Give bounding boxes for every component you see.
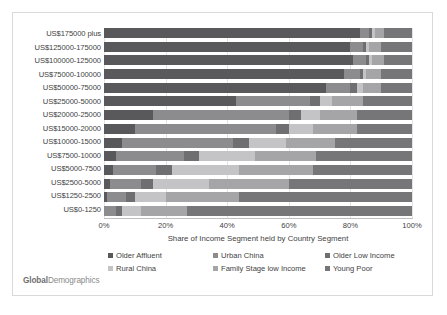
bar-segment [153, 110, 289, 120]
bar-segment [116, 151, 184, 161]
y-axis-label: US$10000-15000 [13, 136, 101, 148]
bar-segment [135, 192, 166, 202]
stacked-bar-row [104, 151, 412, 161]
x-axis-tick-labels: 0%20%40%60%80%100% [104, 221, 412, 233]
gridline [412, 28, 413, 218]
legend-item[interactable]: Older Affluent [108, 249, 213, 262]
bar-segment [310, 96, 319, 106]
legend-item-label: Older Affluent [116, 251, 162, 260]
bar-segment [375, 28, 384, 38]
stacked-bars-container [104, 28, 412, 216]
x-tick-label: 40% [220, 221, 235, 230]
bar-segment [166, 192, 240, 202]
y-axis-label: US$1250-2500 [13, 190, 101, 202]
bar-segment [357, 124, 412, 134]
x-tick-label: 80% [343, 221, 358, 230]
legend-item-label: Family Stage low Income [221, 264, 306, 273]
bar-segment [239, 192, 411, 202]
bar-segment [249, 138, 286, 148]
bar-segment [104, 206, 116, 216]
x-tick-label: 20% [158, 221, 173, 230]
bar-segment [384, 28, 412, 38]
bar-segment [104, 124, 135, 134]
bar-segment [369, 42, 381, 52]
brand-rest: Demographics [48, 276, 100, 285]
bar-segment [104, 96, 236, 106]
stacked-bar-row [104, 42, 412, 52]
chart-frame: US$175000 plusUS$125000-175000US$100000-… [12, 12, 433, 296]
bar-segment [135, 124, 277, 134]
bar-segment [153, 179, 208, 189]
bar-segment [184, 151, 199, 161]
bar-segment [384, 55, 412, 65]
bar-segment [104, 83, 326, 93]
y-axis-label: US$15000-20000 [13, 123, 101, 135]
bar-segment [313, 124, 356, 134]
y-axis-label: US$75000-100000 [13, 69, 101, 81]
stacked-bar-row [104, 28, 412, 38]
y-axis-label: US$2500-5000 [13, 177, 101, 189]
bar-segment [344, 69, 359, 79]
chart-legend: Older AffluentUrban ChinaOlder Low Incom… [108, 249, 418, 275]
legend-item[interactable]: Family Stage low Income [213, 262, 325, 275]
bar-segment [289, 179, 412, 189]
stacked-bar-row [104, 138, 412, 148]
legend-item-label: Young Poor [333, 264, 372, 273]
stacked-bar-row [104, 192, 412, 202]
bar-segment [353, 55, 365, 65]
legend-item[interactable]: Young Poor [325, 262, 418, 275]
bar-segment [187, 206, 412, 216]
bar-segment [110, 179, 141, 189]
bar-segment [357, 110, 412, 120]
bar-segment [239, 165, 313, 175]
y-axis-label: US$0-1250 [13, 204, 101, 216]
x-tick-label: 100% [402, 221, 421, 230]
bar-segment [350, 42, 362, 52]
bar-segment [122, 138, 233, 148]
bar-segment [381, 69, 412, 79]
bar-segment [381, 83, 412, 93]
legend-swatch-icon [325, 266, 330, 271]
y-axis-category-labels: US$175000 plusUS$125000-175000US$100000-… [13, 28, 101, 216]
y-axis-label: US$175000 plus [13, 28, 101, 40]
legend-swatch-icon [108, 253, 113, 258]
legend-item[interactable]: Rural China [108, 262, 213, 275]
bar-segment [289, 110, 301, 120]
bar-segment [113, 165, 156, 175]
bar-segment [104, 69, 344, 79]
brand-watermark: GlobalDemographics [23, 276, 99, 285]
bar-segment [156, 165, 171, 175]
bar-segment [276, 124, 288, 134]
y-axis-label: US$100000-125000 [13, 55, 101, 67]
x-tick-label: 0% [99, 221, 110, 230]
bar-segment [360, 28, 369, 38]
legend-swatch-icon [108, 266, 113, 271]
plot-area: US$175000 plusUS$125000-175000US$100000-… [13, 13, 432, 295]
bar-segment [107, 192, 125, 202]
legend-item[interactable]: Urban China [213, 249, 325, 262]
legend-item-label: Rural China [116, 264, 156, 273]
y-axis-label: US$50000-75000 [13, 82, 101, 94]
legend-swatch-icon [325, 253, 330, 258]
stacked-bar-row [104, 124, 412, 134]
bar-segment [122, 206, 140, 216]
legend-item-label: Urban China [221, 251, 264, 260]
stacked-bar-row [104, 96, 412, 106]
legend-item[interactable]: Older Low Income [325, 249, 418, 262]
bar-segment [104, 165, 113, 175]
bar-segment [372, 55, 384, 65]
y-axis-label: US$5000-7500 [13, 163, 101, 175]
stacked-bar-row [104, 83, 412, 93]
bar-segment [289, 124, 314, 134]
bar-segment [366, 69, 381, 79]
stacked-bar-row [104, 55, 412, 65]
bar-segment [363, 96, 412, 106]
bar-segment [381, 42, 412, 52]
bar-segment [104, 151, 116, 161]
stacked-bar-row [104, 110, 412, 120]
bar-segment [104, 138, 122, 148]
bar-segment [301, 110, 319, 120]
bar-segment [286, 138, 335, 148]
bar-segment [141, 179, 153, 189]
bar-segment [126, 192, 135, 202]
